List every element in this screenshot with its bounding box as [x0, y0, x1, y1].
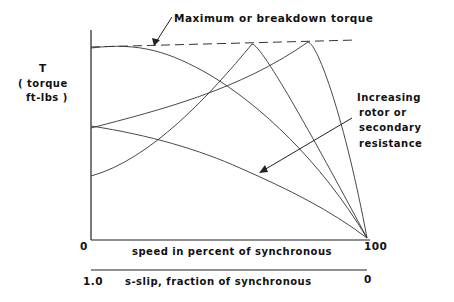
resistance-arrow — [264, 118, 352, 170]
slip-tick-0: 0 — [364, 273, 372, 285]
x-tick-100: 100 — [364, 240, 387, 252]
x-axis-label: speed in percent of synchronous — [132, 246, 332, 257]
breakdown-arrow — [156, 17, 172, 42]
curve-3 — [91, 44, 367, 238]
y-label-units: ft-lbs ) — [26, 92, 68, 103]
breakdown-label: Maximum or breakdown torque — [174, 12, 373, 24]
slip-tick-1: 1.0 — [83, 275, 103, 287]
resistance-label-3: secondary — [359, 122, 422, 133]
slip-axis-label: s-slip, fraction of synchronous — [125, 276, 312, 287]
curve-2 — [91, 126, 367, 238]
arrow-head-icon — [259, 165, 268, 173]
arrow-head-icon — [152, 38, 160, 46]
x-tick-0: 0 — [80, 240, 88, 252]
torque-speed-chart: Maximum or breakdown torque T ( torque f… — [0, 0, 454, 302]
breakdown-torque-line — [91, 40, 357, 47]
y-label-t: T — [39, 62, 47, 74]
resistance-label-1: Increasing — [357, 92, 421, 103]
y-label-torque: ( torque — [18, 78, 68, 89]
resistance-label-2: rotor or — [359, 107, 407, 118]
resistance-label-4: resistance — [359, 138, 422, 149]
